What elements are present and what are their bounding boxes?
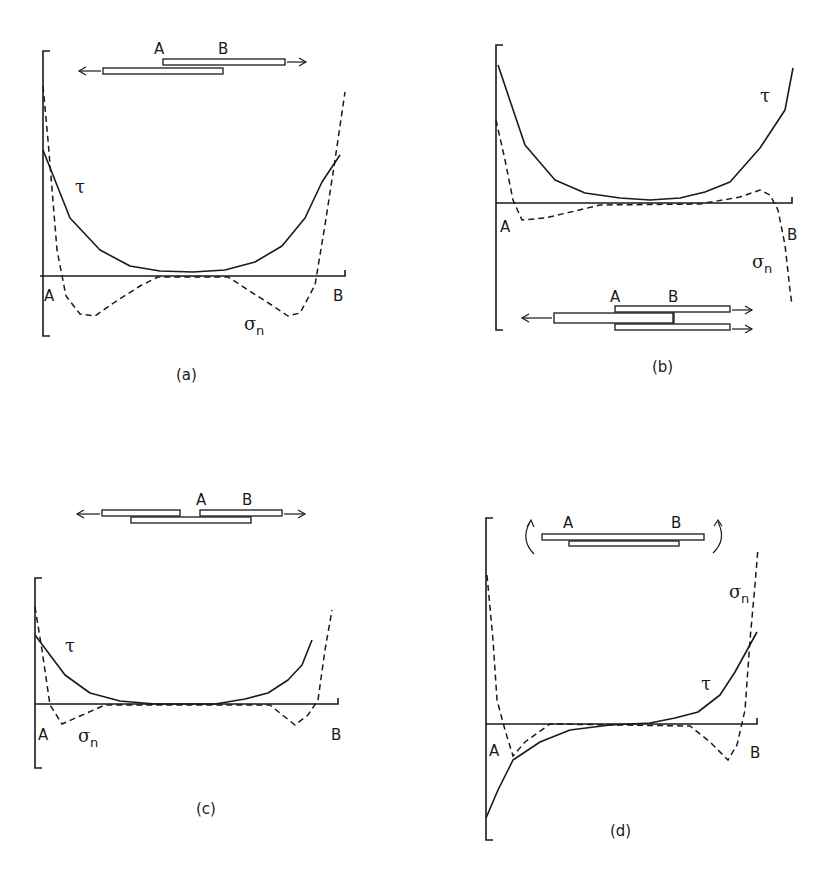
svg-text:σ: σ	[244, 313, 256, 334]
svg-text:n: n	[90, 735, 98, 750]
point-label-a: A	[500, 218, 511, 236]
sigma-n-curve	[487, 548, 758, 760]
sigma-n-curve	[43, 86, 345, 316]
panel-caption-d: (d)	[610, 822, 631, 840]
svg-text:σ: σ	[78, 725, 90, 746]
stress-axis	[486, 518, 493, 840]
joint-schematic-d: A B	[526, 514, 722, 554]
upper-adherend	[542, 534, 704, 540]
sigma-n-label: σ n	[752, 251, 772, 276]
joint-schematic-b: A B	[522, 288, 752, 333]
svg-text:n: n	[256, 323, 264, 338]
tau-curve	[43, 150, 340, 272]
butt-strap	[131, 517, 251, 523]
sigma-n-label: σ n	[78, 725, 98, 750]
panel-c: A B A B τ σ n (c)	[35, 491, 341, 818]
tau-label: τ	[760, 85, 770, 106]
joint-label-a: A	[563, 514, 574, 532]
lower-adherend	[103, 68, 223, 74]
tau-curve	[35, 635, 312, 704]
overlap-baseline	[40, 270, 345, 276]
stress-axis	[496, 45, 503, 330]
svg-text:σ: σ	[729, 581, 741, 602]
arrow-left-icon	[522, 314, 552, 322]
joint-label-a: A	[196, 491, 207, 509]
sigma-n-curve	[35, 607, 332, 725]
arrow-right-icon	[732, 306, 752, 333]
tau-label: τ	[75, 176, 85, 197]
tau-curve	[498, 65, 793, 200]
point-label-b: B	[787, 226, 797, 244]
panel-b: A B τ σ n A B (b)	[496, 45, 797, 376]
point-label-a: A	[489, 742, 500, 760]
upper-strap	[615, 306, 730, 312]
point-label-b: B	[333, 287, 343, 305]
point-label-a: A	[38, 726, 49, 744]
upper-adherend	[163, 59, 285, 65]
moment-arrow-right-icon	[713, 520, 722, 553]
tau-label: τ	[701, 673, 711, 694]
stress-distribution-figure: A B A B τ σ n (a) A B τ σ n	[0, 0, 825, 874]
point-label-a: A	[44, 287, 55, 305]
sigma-n-label: σ n	[729, 581, 749, 606]
arrow-left-icon	[79, 67, 101, 75]
svg-text:σ: σ	[752, 251, 764, 272]
svg-text:n: n	[764, 261, 772, 276]
panel-caption-a: (a)	[176, 366, 197, 384]
overlap-baseline	[486, 718, 757, 724]
moment-arrow-left-icon	[526, 520, 534, 554]
panel-caption-b: (b)	[652, 358, 673, 376]
joint-label-b: B	[242, 491, 252, 509]
panel-a: A B A B τ σ n (a)	[40, 40, 345, 384]
joint-label-a: A	[610, 288, 621, 306]
sigma-n-label: σ n	[244, 313, 264, 338]
joint-label-b: B	[668, 288, 678, 306]
joint-schematic-a: A B	[79, 40, 306, 75]
joint-schematic-c: A B	[77, 491, 305, 523]
arrow-left-icon	[77, 510, 100, 518]
lower-strap	[615, 324, 730, 330]
joint-label-a: A	[154, 40, 165, 58]
left-adherend	[102, 510, 180, 516]
point-label-b: B	[331, 726, 341, 744]
lower-adherend	[569, 541, 679, 546]
right-adherend	[200, 510, 282, 516]
joint-label-b: B	[671, 514, 681, 532]
arrow-right-icon	[284, 510, 305, 518]
tau-label: τ	[65, 635, 75, 656]
panel-caption-c: (c)	[196, 800, 216, 818]
point-label-b: B	[750, 744, 760, 762]
overlap-baseline	[35, 698, 338, 704]
joint-label-b: B	[218, 40, 228, 58]
arrow-right-icon	[287, 58, 306, 66]
svg-text:n: n	[741, 591, 749, 606]
panel-d: A B A B τ σ n (d)	[486, 514, 760, 840]
center-adherend	[554, 313, 674, 323]
sigma-n-curve	[496, 120, 792, 305]
